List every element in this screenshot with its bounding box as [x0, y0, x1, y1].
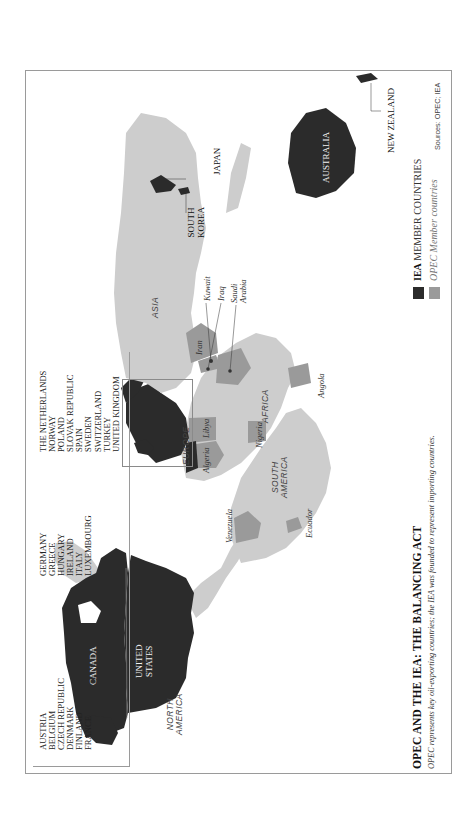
legend-label-opec: OPEC Member countries: [428, 179, 439, 281]
label-libya: Libya: [201, 419, 211, 438]
legend-label-iea: IEA MEMBER COUNTRIES: [412, 159, 423, 281]
label-asia: ASIA: [151, 297, 160, 318]
iea-country-list-box: AUSTRIA BELGIUM CZECH REPUBLIC DENMARK F…: [33, 352, 130, 767]
country-list-item: LUXEMBOURG: [84, 515, 93, 576]
country-list-column-3: THE NETHERLANDS NORWAY POLAND SLOVAK REP…: [39, 371, 121, 452]
label-north-america: NORTH AMERICA: [166, 693, 184, 735]
label-nigeria: Nigeria: [254, 422, 264, 448]
label-canada: CANADA: [88, 646, 98, 685]
label-new-zealand: NEW ZEALAND: [386, 88, 396, 153]
label-south-korea: SOUTH KOREA: [186, 207, 206, 238]
united-states-shape: [124, 555, 194, 713]
opec-swatch: [429, 287, 440, 299]
label-angola: Angola: [316, 373, 326, 398]
label-saudi-arabia: Saudi Arabia: [230, 279, 248, 303]
label-japan: JAPAN: [212, 148, 222, 175]
iea-swatch: [413, 287, 424, 299]
indonesia-shape: [226, 143, 251, 213]
label-united-states: UNITED STATES: [134, 645, 154, 679]
label-europe: EUROPE: [182, 427, 191, 465]
label-south-america: SOUTH AMERICA: [271, 456, 289, 498]
label-ecuador: Ecuador: [304, 509, 314, 538]
label-iraq: Iraq: [216, 286, 226, 301]
label-kuwait: Kuwait: [202, 276, 212, 301]
label-australia: AUSTRALIA: [321, 132, 331, 183]
label-venezuela: Venezuela: [224, 509, 234, 543]
sources-note: Sources: OPEC; IEA: [433, 83, 442, 150]
country-list-item: FRANCE: [84, 678, 93, 750]
new-zealand-shape: [356, 73, 378, 83]
figure-title: OPEC AND THE IEA: THE BALANCING ACT: [411, 526, 423, 769]
country-list-column-1: AUSTRIA BELGIUM CZECH REPUBLIC DENMARK F…: [39, 678, 94, 750]
map-figure: AUSTRIA BELGIUM CZECH REPUBLIC DENMARK F…: [25, 70, 452, 774]
label-algeria: Algeria: [201, 448, 211, 474]
country-list-column-2: GERMANY GREECE HUNGARY IRELAND ITALY LUX…: [39, 515, 94, 576]
figure-subtitle: OPEC represents key oil-exporting countr…: [427, 435, 436, 769]
nz-leader: [371, 83, 381, 111]
label-africa: AFRICA: [261, 389, 270, 423]
country-list-item: UNITED KINGDOM: [112, 371, 121, 452]
label-iran: Iran: [194, 340, 204, 355]
